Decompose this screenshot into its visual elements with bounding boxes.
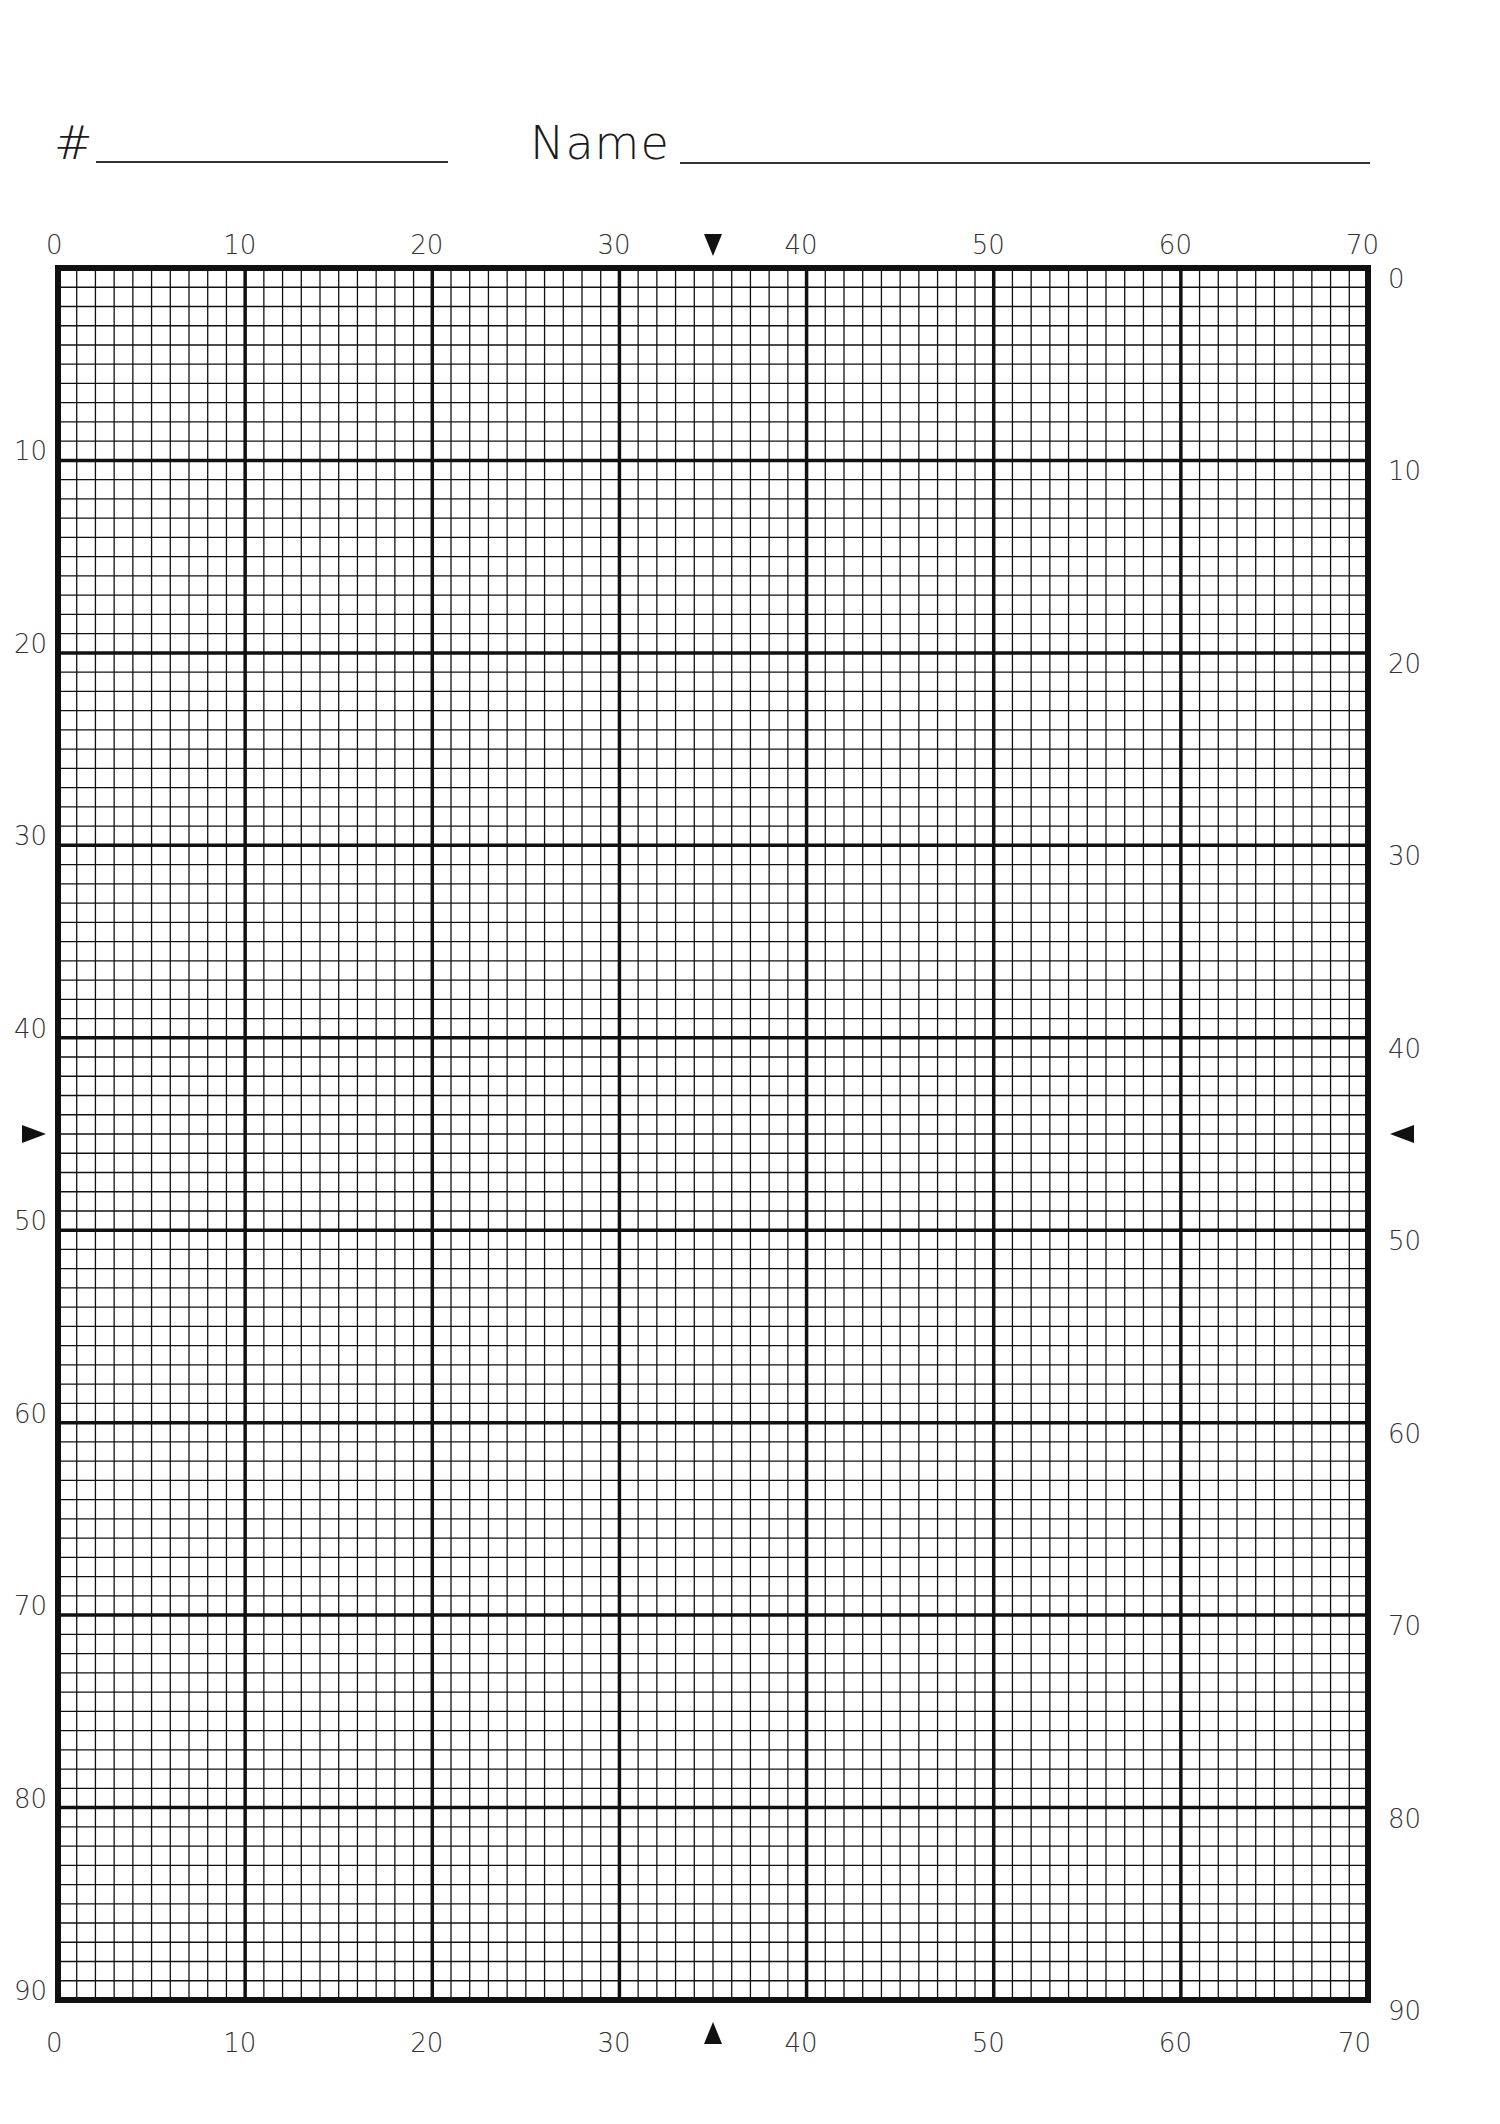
top-axis-label: 40 xyxy=(785,232,818,258)
top-axis-label: 70 xyxy=(1346,232,1379,258)
bottom-axis-label: 0 xyxy=(46,2030,63,2056)
bottom-axis-label: 70 xyxy=(1338,2030,1371,2056)
right-axis-label: 90 xyxy=(1388,1998,1421,2024)
left-axis-label: 70 xyxy=(14,1593,47,1619)
bottom-axis-label: 40 xyxy=(785,2030,818,2056)
left-axis-label: 30 xyxy=(14,823,47,849)
bottom-axis-label: 20 xyxy=(410,2030,443,2056)
left-axis-label: 50 xyxy=(14,1208,47,1234)
right-axis-label: 60 xyxy=(1388,1421,1421,1447)
right-axis-label: 10 xyxy=(1388,458,1421,484)
right-axis-label: 0 xyxy=(1388,266,1405,292)
right-axis-label: 40 xyxy=(1388,1036,1421,1062)
center-column-marker-down-icon xyxy=(704,234,722,256)
top-axis-label: 20 xyxy=(410,232,443,258)
right-axis-label: 70 xyxy=(1388,1613,1421,1639)
top-axis-label: 10 xyxy=(223,232,256,258)
bottom-axis-label: 50 xyxy=(972,2030,1005,2056)
center-row-marker-left-icon xyxy=(1390,1125,1414,1143)
top-axis-label: 30 xyxy=(597,232,630,258)
cross-stitch-grid xyxy=(0,0,1500,2124)
bottom-axis-label: 10 xyxy=(223,2030,256,2056)
left-axis-label: 80 xyxy=(14,1786,47,1812)
right-axis-label: 80 xyxy=(1388,1806,1421,1832)
top-axis-label: 0 xyxy=(46,232,63,258)
top-axis-label: 60 xyxy=(1159,232,1192,258)
right-axis-label: 50 xyxy=(1388,1228,1421,1254)
center-column-marker-up-icon xyxy=(704,2022,722,2044)
left-axis-label: 10 xyxy=(14,438,47,464)
left-axis-label: 40 xyxy=(14,1016,47,1042)
right-axis-label: 20 xyxy=(1388,651,1421,677)
left-axis-label: 60 xyxy=(14,1401,47,1427)
bottom-axis-label: 30 xyxy=(597,2030,630,2056)
top-axis-label: 50 xyxy=(972,232,1005,258)
center-row-marker-right-icon xyxy=(22,1125,46,1143)
left-axis-label: 90 xyxy=(14,1978,47,2004)
bottom-axis-label: 60 xyxy=(1159,2030,1192,2056)
right-axis-label: 30 xyxy=(1388,843,1421,869)
left-axis-label: 20 xyxy=(14,631,47,657)
